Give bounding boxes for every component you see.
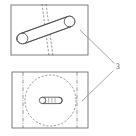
reference-label-3: 3 (116, 62, 120, 71)
technical-drawing-figure: 3 (0, 0, 136, 136)
center-pin (39, 97, 62, 103)
rod-end-cap-right (64, 16, 75, 27)
diagonal-rod (16, 16, 74, 44)
rod-end-cap-left (17, 33, 28, 44)
pin-head-right (59, 97, 62, 103)
leader-line-to-bottom-view (82, 71, 114, 102)
pin-body (39, 97, 62, 103)
bottom-view-outline (12, 72, 88, 128)
reference-numeral-3: 3 (80, 30, 120, 101)
bottom-view (12, 72, 88, 128)
hidden-circle (25, 75, 76, 126)
drawing-canvas: 3 (0, 0, 136, 136)
top-view (11, 4, 88, 56)
leader-line-to-top-view (80, 30, 115, 64)
